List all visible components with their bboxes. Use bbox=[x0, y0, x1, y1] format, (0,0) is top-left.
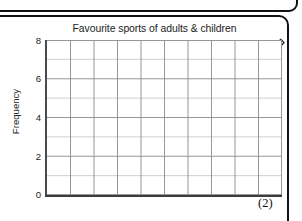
chart-gridlines bbox=[47, 40, 282, 195]
y-tick-label-0: 0 bbox=[19, 189, 41, 200]
exam-question-frame-upper bbox=[0, 0, 298, 12]
y-tick-label-8: 8 bbox=[19, 35, 41, 46]
chart-title: Favourite sports of adults & children bbox=[52, 23, 257, 34]
y-tick-label-2: 2 bbox=[19, 151, 41, 162]
y-tick-label-6: 6 bbox=[19, 73, 41, 84]
y-tick-label-4: 4 bbox=[19, 112, 41, 123]
marks-allocation: (2) bbox=[258, 196, 273, 211]
plot-area[interactable] bbox=[45, 40, 282, 197]
bar-chart-answer-grid[interactable]: Favourite sports of adults & children Fr… bbox=[0, 18, 289, 203]
